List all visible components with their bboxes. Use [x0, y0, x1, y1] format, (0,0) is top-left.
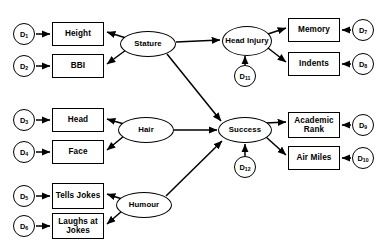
- edge-stature-to-bbi: [107, 50, 126, 64]
- latent-hair: Hair: [118, 117, 174, 143]
- latent-success: Success: [218, 117, 272, 143]
- disturbance-d10: D10: [352, 147, 374, 169]
- disturbance-d11: D11: [234, 65, 256, 87]
- indicator-face: Face: [52, 140, 104, 164]
- indicator-tells-jokes: Tells Jokes: [52, 183, 104, 209]
- disturbance-d9: D9: [352, 114, 374, 136]
- disturbance-d1: D1: [13, 23, 35, 45]
- edge-humour-to-laughs-jokes: [107, 211, 122, 224]
- edge-head-injury-to-memory: [268, 28, 286, 34]
- disturbance-d8: D8: [352, 53, 374, 75]
- indicator-height: Height: [52, 22, 104, 46]
- edge-success-to-air-miles: [266, 137, 286, 155]
- edge-stature-to-head-injury: [176, 40, 220, 42]
- indicator-memory: Memory: [288, 18, 340, 42]
- disturbance-d5: D5: [13, 185, 35, 207]
- indicator-academic-rank: Academic Rank: [288, 112, 340, 138]
- disturbance-d12: D12: [234, 156, 256, 178]
- disturbance-letter: D: [239, 163, 244, 172]
- path-diagram-canvas: HeightBBIHeadFaceTells JokesLaughs at Jo…: [0, 0, 386, 247]
- edge-stature-to-success: [167, 54, 221, 121]
- disturbance-letter: D: [357, 154, 362, 163]
- disturbance-d6: D6: [13, 215, 35, 237]
- indicator-head: Head: [52, 108, 104, 132]
- indicator-laughs-jokes: Laughs at Jokes: [52, 213, 104, 239]
- latent-humour: Humour: [116, 192, 172, 218]
- edge-humour-to-success: [166, 141, 222, 196]
- edge-success-to-academic-rank: [266, 122, 286, 123]
- disturbance-d7: D7: [352, 19, 374, 41]
- latent-head-injury: Head Injury: [222, 26, 272, 56]
- edge-head-injury-to-indents: [268, 48, 286, 62]
- indicator-indents: Indents: [288, 52, 340, 76]
- disturbance-d2: D2: [13, 55, 35, 77]
- indicator-bbi: BBI: [52, 54, 104, 78]
- disturbance-d3: D3: [13, 109, 35, 131]
- indicator-air-miles: Air Miles: [288, 146, 340, 170]
- edge-hair-to-face: [107, 136, 124, 150]
- latent-stature: Stature: [120, 31, 176, 57]
- disturbance-d4: D4: [13, 141, 35, 163]
